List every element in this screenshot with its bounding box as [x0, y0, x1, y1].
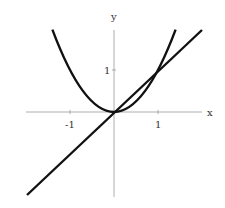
- x-tick-label-1: 1: [155, 119, 161, 130]
- y-tick-label-1: 1: [104, 65, 110, 76]
- y-axis-label: y: [110, 11, 117, 22]
- x-axis-label: x: [207, 107, 213, 118]
- x-tick-label-neg1: -1: [65, 119, 75, 130]
- plot-canvas: x y -1 1 1: [0, 0, 225, 208]
- line-y-equals-x: [27, 30, 202, 195]
